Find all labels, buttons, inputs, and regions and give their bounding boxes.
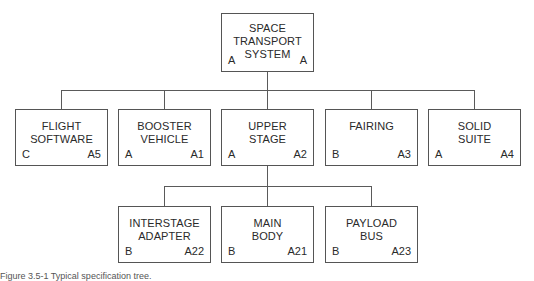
node-fairing: FAIRING B A3	[325, 109, 418, 166]
node-main-body: MAIN BODY B A21	[221, 206, 314, 263]
node-title: FLIGHT SOFTWARE	[16, 120, 107, 146]
connector-main-body	[267, 186, 268, 206]
node-upper-stage: UPPER STAGE A A2	[221, 109, 314, 166]
node-id: A22	[184, 245, 204, 257]
node-space-transport-system: SPACE TRANSPORT SYSTEM A A	[221, 13, 314, 72]
node-payload-bus: PAYLOAD BUS B A23	[325, 206, 418, 263]
node-title: FAIRING	[326, 120, 417, 133]
connector-booster-vehicle	[164, 90, 165, 109]
connector-upper-stage-down	[267, 166, 268, 187]
node-spec-class: B	[125, 245, 132, 257]
connector-solid-suite	[474, 90, 475, 109]
node-spec-class: B	[228, 245, 235, 257]
figure-caption: Figure 3.5-1 Typical specification tree.	[0, 271, 151, 281]
node-interstage-adapter: INTERSTAGE ADAPTER B A22	[118, 206, 211, 263]
node-spec-class: C	[22, 148, 30, 160]
node-id: A2	[294, 148, 307, 160]
connector-level2-bus	[164, 186, 372, 187]
node-spec-class: B	[332, 148, 339, 160]
node-title: MAIN BODY	[222, 217, 313, 243]
node-spec-class: B	[332, 245, 339, 257]
connector-flight-software	[61, 90, 62, 109]
node-title: UPPER STAGE	[222, 120, 313, 146]
connector-interstage-adapter	[164, 186, 165, 206]
connector-payload-bus	[371, 186, 372, 206]
node-spec-class: A	[228, 148, 235, 160]
connector-upper-stage	[267, 90, 268, 109]
node-title: SOLID SUITE	[429, 120, 520, 146]
node-id: A5	[88, 148, 101, 160]
node-booster-vehicle: BOOSTER VEHICLE A A1	[118, 109, 211, 166]
connector-fairing	[371, 90, 372, 109]
node-id: A21	[287, 245, 307, 257]
node-title: INTERSTAGE ADAPTER	[119, 217, 210, 243]
connector-root-down	[267, 71, 268, 91]
node-spec-class: A	[125, 148, 132, 160]
node-id: A23	[391, 245, 411, 257]
node-solid-suite: SOLID SUITE A A4	[428, 109, 521, 166]
node-spec-class: A	[435, 148, 442, 160]
node-spec-class: A	[228, 54, 235, 66]
node-id: A3	[398, 148, 411, 160]
connector-level1-bus	[61, 90, 475, 91]
node-title: BOOSTER VEHICLE	[119, 120, 210, 146]
node-id: A1	[191, 148, 204, 160]
node-id: A4	[501, 148, 514, 160]
node-id: A	[300, 54, 307, 66]
node-title: PAYLOAD BUS	[326, 217, 417, 243]
node-flight-software: FLIGHT SOFTWARE C A5	[15, 109, 108, 166]
